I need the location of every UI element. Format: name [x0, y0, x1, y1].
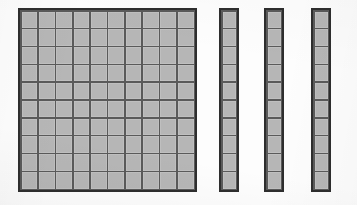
unit-cube	[91, 47, 107, 63]
unit-cube	[126, 29, 142, 45]
unit-cube	[268, 172, 281, 188]
unit-cube	[74, 47, 90, 63]
unit-cube	[315, 47, 328, 63]
unit-cube	[126, 172, 142, 188]
unit-cube	[22, 154, 38, 170]
ten-rod-block-3[interactable]	[311, 8, 331, 192]
unit-cube	[74, 29, 90, 45]
unit-cube	[160, 119, 176, 135]
unit-cube	[39, 119, 55, 135]
ten-rod-block-2[interactable]	[264, 8, 284, 192]
unit-cube	[22, 172, 38, 188]
ten-rod-block-1[interactable]	[219, 8, 239, 192]
unit-cube	[108, 65, 124, 81]
unit-cube	[268, 47, 281, 63]
unit-cube	[56, 101, 72, 117]
unit-cube	[178, 136, 194, 152]
unit-cube	[91, 29, 107, 45]
unit-cube	[91, 172, 107, 188]
hundred-flat-block[interactable]	[18, 8, 197, 192]
unit-cube	[74, 83, 90, 99]
unit-cube	[143, 29, 159, 45]
unit-cube	[143, 83, 159, 99]
unit-cube	[178, 29, 194, 45]
unit-cube	[315, 12, 328, 28]
unit-cube	[126, 136, 142, 152]
unit-cube	[56, 172, 72, 188]
unit-cube	[22, 47, 38, 63]
base-ten-blocks-figure	[0, 0, 357, 205]
unit-cube	[143, 47, 159, 63]
unit-cube	[108, 119, 124, 135]
unit-cube	[39, 136, 55, 152]
unit-cube	[315, 101, 328, 117]
unit-cube	[178, 47, 194, 63]
unit-cube	[223, 47, 236, 63]
unit-cube	[91, 65, 107, 81]
unit-cube	[160, 47, 176, 63]
unit-cube	[315, 154, 328, 170]
unit-cube	[268, 101, 281, 117]
unit-cube	[56, 154, 72, 170]
unit-cube	[108, 29, 124, 45]
unit-cube	[91, 154, 107, 170]
unit-cube	[160, 12, 176, 28]
unit-cube	[108, 136, 124, 152]
unit-cube	[108, 172, 124, 188]
unit-cube	[223, 101, 236, 117]
unit-cube	[39, 154, 55, 170]
unit-cube	[74, 101, 90, 117]
unit-cube	[268, 119, 281, 135]
unit-cube	[91, 12, 107, 28]
unit-cube	[223, 65, 236, 81]
unit-cube	[39, 83, 55, 99]
unit-cube	[22, 12, 38, 28]
unit-cube	[22, 83, 38, 99]
unit-cube	[126, 83, 142, 99]
unit-cube	[74, 12, 90, 28]
unit-cube	[178, 83, 194, 99]
unit-cube	[126, 65, 142, 81]
unit-cube	[268, 65, 281, 81]
unit-cube	[74, 172, 90, 188]
unit-cube	[223, 172, 236, 188]
unit-cube	[223, 119, 236, 135]
unit-cube	[143, 65, 159, 81]
unit-cube	[143, 172, 159, 188]
unit-cube	[268, 136, 281, 152]
unit-cube	[315, 65, 328, 81]
unit-cube	[56, 12, 72, 28]
unit-cube	[143, 119, 159, 135]
unit-cube	[22, 65, 38, 81]
unit-cube	[108, 12, 124, 28]
unit-cube	[56, 119, 72, 135]
unit-cube	[39, 101, 55, 117]
unit-cube	[126, 119, 142, 135]
unit-cube	[74, 154, 90, 170]
unit-cube	[178, 154, 194, 170]
unit-cube	[39, 65, 55, 81]
unit-cube	[143, 12, 159, 28]
unit-cube	[126, 12, 142, 28]
unit-cube	[143, 154, 159, 170]
unit-cube	[22, 101, 38, 117]
unit-cube	[315, 83, 328, 99]
unit-cube	[74, 65, 90, 81]
unit-cube	[178, 101, 194, 117]
unit-cube	[160, 172, 176, 188]
unit-cube	[91, 101, 107, 117]
unit-cube	[268, 29, 281, 45]
unit-cube	[56, 65, 72, 81]
unit-cube	[39, 172, 55, 188]
unit-cube	[56, 136, 72, 152]
unit-cube	[39, 12, 55, 28]
unit-cube	[268, 83, 281, 99]
unit-cube	[126, 101, 142, 117]
unit-cube	[315, 172, 328, 188]
unit-cube	[91, 119, 107, 135]
unit-cube	[268, 154, 281, 170]
unit-cube	[160, 101, 176, 117]
unit-cube	[178, 12, 194, 28]
unit-cube	[74, 119, 90, 135]
unit-cube	[22, 29, 38, 45]
